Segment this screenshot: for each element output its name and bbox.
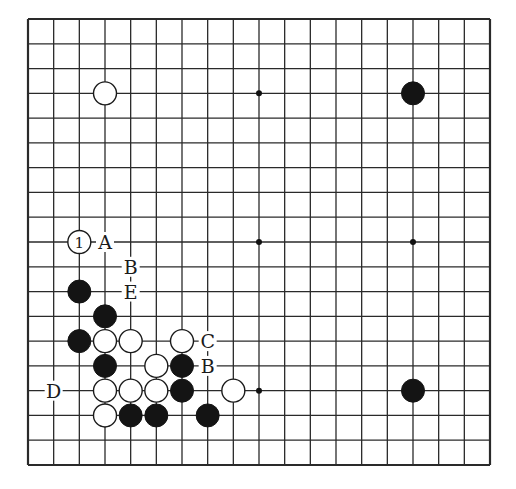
black-stone-icon [68, 330, 91, 353]
black-stone[interactable] [196, 404, 219, 427]
black-stone-icon [402, 82, 425, 105]
black-stone[interactable] [119, 404, 142, 427]
white-stone-icon [145, 354, 168, 377]
white-stone[interactable] [119, 330, 142, 353]
white-stone[interactable]: 1 [68, 231, 91, 254]
black-stone-icon [94, 354, 117, 377]
black-stone-icon [94, 305, 117, 328]
position-label-b: B [201, 355, 215, 377]
white-stone[interactable] [145, 354, 168, 377]
black-stone[interactable] [68, 330, 91, 353]
black-stone-icon [145, 404, 168, 427]
star-point-icon [256, 239, 262, 245]
white-stone-icon [119, 330, 142, 353]
position-label-e: E [124, 281, 138, 303]
black-stone-icon [119, 404, 142, 427]
white-stone[interactable] [94, 82, 117, 105]
white-stone-icon [94, 82, 117, 105]
white-stone[interactable] [145, 379, 168, 402]
black-stone[interactable] [68, 280, 91, 303]
star-point-icon [256, 90, 262, 96]
white-stone[interactable] [94, 330, 117, 353]
position-label-a: A [97, 231, 112, 253]
white-stone-icon [119, 379, 142, 402]
black-stone[interactable] [171, 379, 194, 402]
black-stone-icon [171, 379, 194, 402]
white-stone-icon [94, 330, 117, 353]
black-stone[interactable] [94, 305, 117, 328]
white-stone[interactable] [94, 404, 117, 427]
star-point-icon [256, 388, 262, 394]
white-stone[interactable] [171, 330, 194, 353]
white-stone[interactable] [94, 379, 117, 402]
white-stone-icon [94, 404, 117, 427]
white-stone-icon [222, 379, 245, 402]
black-stone-icon [402, 379, 425, 402]
go-board[interactable]: ABECBD 1 [0, 0, 516, 489]
position-label-c: C [200, 330, 215, 352]
white-stone-icon [94, 379, 117, 402]
position-label-d: D [46, 380, 61, 402]
position-label-b: B [124, 256, 138, 278]
black-stone-icon [196, 404, 219, 427]
star-point-icon [410, 239, 416, 245]
black-stone-icon [171, 354, 194, 377]
white-stone[interactable] [222, 379, 245, 402]
black-stone[interactable] [402, 379, 425, 402]
move-number: 1 [75, 234, 85, 252]
white-stone-icon [145, 379, 168, 402]
black-stone-icon [68, 280, 91, 303]
white-stone-icon [171, 330, 194, 353]
white-stone[interactable] [119, 379, 142, 402]
go-board-svg[interactable]: ABECBD 1 [0, 0, 516, 489]
black-stone[interactable] [94, 354, 117, 377]
black-stone[interactable] [145, 404, 168, 427]
black-stone[interactable] [171, 354, 194, 377]
black-stone[interactable] [402, 82, 425, 105]
